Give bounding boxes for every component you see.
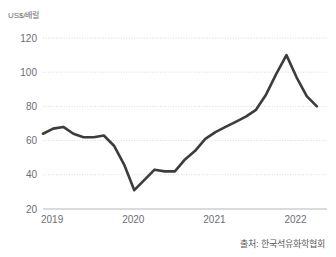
x-axis-tick-labels: 2019202020212022 — [41, 214, 307, 225]
x-tick-label: 2022 — [284, 214, 307, 225]
x-tick-label: 2019 — [41, 214, 64, 225]
line-chart-svg: 20406080100120 2019202020212022 — [0, 0, 336, 232]
y-axis-tick-labels: 20406080100120 — [20, 33, 37, 215]
x-tick-label: 2020 — [122, 214, 145, 225]
plot-area: 20406080100120 2019202020212022 — [0, 0, 336, 232]
x-tick-label: 2021 — [203, 214, 226, 225]
y-tick-label: 60 — [26, 135, 38, 146]
y-tick-label: 40 — [26, 169, 38, 180]
y-tick-label: 80 — [26, 101, 38, 112]
y-tick-label: 20 — [26, 204, 38, 215]
source-note: 출처: 한국석유화학협회 — [240, 238, 325, 250]
y-tick-label: 120 — [20, 33, 37, 44]
gridlines-group — [43, 38, 327, 209]
price-line-series — [43, 55, 317, 190]
oil-price-chart-figure: US$/배럴 20406080100120 2019202020212022 출… — [0, 0, 336, 257]
y-tick-label: 100 — [20, 67, 37, 78]
